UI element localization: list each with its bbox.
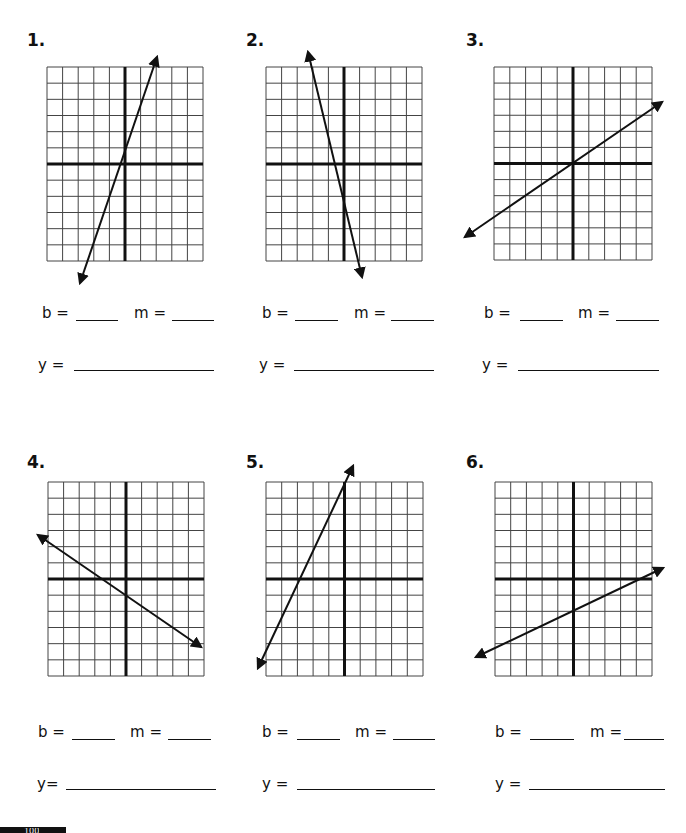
b-answer-blank-1[interactable]: [76, 320, 118, 321]
graphed-lines: [38, 52, 663, 668]
b-label-2: b =: [262, 304, 289, 322]
b-answer-blank-2[interactable]: [295, 320, 338, 321]
b-answer-blank-6[interactable]: [530, 739, 574, 740]
coordinate-grid-6: [495, 482, 652, 676]
y-label-4: y=: [37, 775, 58, 793]
equation-answer-blank-4[interactable]: [66, 789, 216, 790]
b-label-3: b =: [484, 304, 511, 322]
y-label-2: y =: [259, 356, 285, 374]
equation-answer-blank-1[interactable]: [74, 370, 214, 371]
b-label-6: b =: [495, 723, 522, 741]
b-label-1: b =: [42, 304, 69, 322]
b-label-4: b =: [38, 723, 65, 741]
m-answer-blank-4[interactable]: [168, 739, 211, 740]
m-label-6: m =: [590, 723, 622, 741]
coordinate-grid-2: [266, 67, 422, 261]
graphs-canvas: [0, 0, 686, 833]
y-label-3: y =: [482, 356, 508, 374]
m-answer-blank-1[interactable]: [172, 320, 214, 321]
m-label-2: m =: [354, 304, 386, 322]
b-answer-blank-3[interactable]: [520, 320, 563, 321]
m-answer-blank-5[interactable]: [393, 739, 435, 740]
m-label-1: m =: [134, 304, 166, 322]
b-answer-blank-5[interactable]: [297, 739, 340, 740]
m-label-4: m =: [130, 723, 162, 741]
coordinate-grid-1: [47, 67, 203, 261]
equation-answer-blank-2[interactable]: [294, 370, 434, 371]
b-answer-blank-4[interactable]: [72, 739, 115, 740]
coordinate-grid-5: [266, 482, 423, 676]
coordinate-grid-4: [48, 482, 204, 676]
equation-answer-blank-5[interactable]: [297, 789, 435, 790]
m-answer-blank-3[interactable]: [616, 320, 659, 321]
page-number: 100: [24, 828, 39, 833]
m-label-5: m =: [355, 723, 387, 741]
equation-answer-blank-6[interactable]: [529, 789, 665, 790]
y-label-5: y =: [262, 775, 288, 793]
y-label-1: y =: [38, 356, 64, 374]
y-label-6: y =: [495, 775, 521, 793]
m-answer-blank-6[interactable]: [624, 739, 664, 740]
b-label-5: b =: [262, 723, 289, 741]
m-answer-blank-2[interactable]: [391, 320, 434, 321]
m-label-3: m =: [578, 304, 610, 322]
equation-answer-blank-3[interactable]: [518, 370, 659, 371]
